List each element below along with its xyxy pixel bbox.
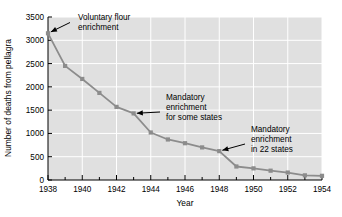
x-tick-label-1950: 1950 — [244, 185, 263, 194]
data-point-1943 — [132, 111, 136, 115]
data-point-1952 — [286, 170, 290, 174]
x-axis-tick-labels: 193819401942194419461948195019521954 — [39, 185, 332, 194]
data-point-1950 — [251, 166, 255, 170]
y-tick-label-0: 0 — [39, 176, 44, 185]
annotation-line: enrichment — [251, 135, 292, 144]
y-tick-label-3000: 3000 — [26, 36, 45, 45]
y-tick-label-2000: 2000 — [26, 83, 45, 92]
x-axis-title: Year — [177, 198, 194, 208]
x-tick-label-1952: 1952 — [279, 185, 298, 194]
data-point-1941 — [97, 91, 101, 95]
x-tick-label-1946: 1946 — [176, 185, 195, 194]
y-tick-label-3500: 3500 — [26, 13, 45, 22]
chart-figure: 0500100015002000250030003500 19381940194… — [0, 0, 342, 217]
y-tick-label-500: 500 — [30, 153, 44, 162]
annotation-line: enrichment — [166, 103, 207, 112]
x-tick-label-1942: 1942 — [107, 185, 126, 194]
data-point-1942 — [114, 105, 118, 109]
data-point-1939 — [63, 64, 67, 68]
data-point-1946 — [183, 141, 187, 145]
x-tick-label-1954: 1954 — [313, 185, 332, 194]
x-tick-label-1944: 1944 — [142, 185, 161, 194]
annotation-line: for some states — [166, 113, 222, 122]
x-tick-label-1940: 1940 — [73, 185, 92, 194]
y-tick-label-1500: 1500 — [26, 106, 45, 115]
annotation-line: Mandatory — [251, 125, 291, 134]
data-point-1938 — [46, 31, 50, 35]
y-tick-label-1000: 1000 — [26, 129, 45, 138]
x-tick-label-1938: 1938 — [39, 185, 58, 194]
annotation-line: enrichment — [78, 23, 119, 32]
annotation-line: Voluntary flour — [78, 13, 131, 22]
y-axis-title: Number of deaths from pellagra — [3, 39, 13, 157]
data-point-1951 — [269, 169, 273, 173]
annotation-line: Mandatory — [166, 93, 206, 102]
data-point-1948 — [217, 149, 221, 153]
data-point-1940 — [80, 77, 84, 81]
data-point-1947 — [200, 145, 204, 149]
data-point-1945 — [166, 137, 170, 141]
data-point-1954 — [320, 174, 324, 178]
pellagra-deaths-line-chart: 0500100015002000250030003500 19381940194… — [0, 0, 342, 217]
data-point-1949 — [234, 164, 238, 168]
data-point-1953 — [303, 173, 307, 177]
y-tick-label-2500: 2500 — [26, 60, 45, 69]
x-tick-label-1948: 1948 — [210, 185, 229, 194]
data-point-1944 — [149, 130, 153, 134]
annotation-line: in 22 states — [251, 145, 293, 154]
